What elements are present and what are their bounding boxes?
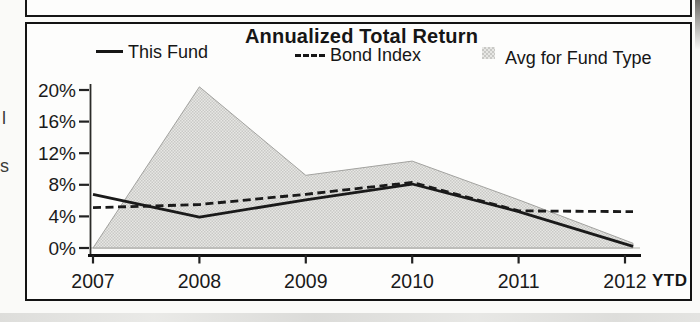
scan-artifact-band <box>0 313 700 322</box>
ytd-label: YTD <box>652 271 688 291</box>
legend-label-this-fund: This Fund <box>128 42 208 63</box>
left-margin-text-fragment: l <box>2 108 6 129</box>
this-fund-line-swatch <box>96 50 123 53</box>
left-margin-text-fragment: s <box>0 156 9 177</box>
legend-label-bond-index: Bond Index <box>330 45 421 66</box>
previous-section-box <box>25 0 692 17</box>
legend-label-avg-fund-type: Avg for Fund Type <box>505 48 651 69</box>
bond-index-line-swatch <box>295 54 325 57</box>
scanned-fact-sheet-page: l s Annualized Total Return This Fund Bo… <box>0 0 700 322</box>
scan-edge-smudge <box>695 0 700 50</box>
avg-fund-type-area-swatch <box>482 47 495 59</box>
